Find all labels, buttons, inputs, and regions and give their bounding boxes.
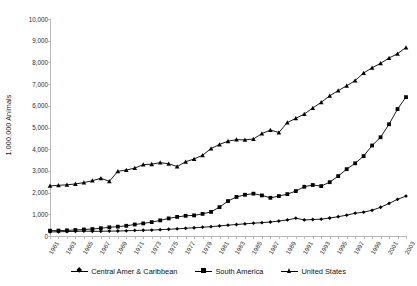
data-point-marker xyxy=(209,210,213,214)
legend-label: South America xyxy=(215,267,263,276)
data-point-marker xyxy=(404,45,409,49)
data-point-marker xyxy=(327,94,332,98)
data-point-marker xyxy=(260,194,264,198)
data-point-marker xyxy=(302,185,306,189)
data-point-marker xyxy=(336,88,341,92)
data-point-marker xyxy=(167,227,171,231)
data-point-marker xyxy=(116,229,120,233)
data-point-marker xyxy=(294,216,298,220)
data-point-marker xyxy=(387,202,391,206)
data-point-marker xyxy=(260,221,264,225)
data-point-marker xyxy=(379,205,383,209)
data-point-marker xyxy=(336,215,340,219)
data-point-marker xyxy=(370,144,374,148)
data-point-marker xyxy=(252,221,256,225)
data-point-marker xyxy=(133,229,137,233)
data-point-marker xyxy=(361,71,366,75)
data-point-marker xyxy=(141,222,145,226)
legend-label: United States xyxy=(301,267,345,276)
data-point-marker xyxy=(353,161,357,165)
data-point-marker xyxy=(336,174,340,178)
data-point-marker xyxy=(192,213,196,217)
data-point-marker xyxy=(396,107,400,111)
legend-triangle-marker-icon xyxy=(281,267,298,275)
data-point-marker xyxy=(235,195,239,199)
data-point-marker xyxy=(209,225,213,229)
legend-entry[interactable]: United States xyxy=(281,267,345,276)
legend-entry[interactable]: South America xyxy=(195,267,263,276)
data-point-marker xyxy=(379,135,383,139)
chart-legend: Central Amer & CaribbeanSouth AmericaUni… xyxy=(0,264,417,278)
data-point-marker xyxy=(167,217,171,221)
data-point-marker xyxy=(344,84,349,88)
data-point-marker xyxy=(353,211,357,215)
data-point-marker xyxy=(150,228,154,232)
data-point-marker xyxy=(387,56,392,60)
data-point-marker xyxy=(116,225,120,229)
data-point-marker xyxy=(362,154,366,158)
data-point-marker xyxy=(201,225,205,229)
data-point-marker xyxy=(396,197,400,201)
series-line xyxy=(50,97,406,231)
data-point-marker xyxy=(387,122,391,126)
data-point-marker xyxy=(345,213,349,217)
legend-entry[interactable]: Central Amer & Caribbean xyxy=(71,267,177,276)
data-point-marker xyxy=(328,216,332,220)
data-point-marker xyxy=(175,227,179,231)
data-point-marker xyxy=(310,106,315,110)
data-point-marker xyxy=(311,183,315,187)
data-point-marker xyxy=(65,228,69,232)
data-point-marker xyxy=(90,227,94,231)
data-point-marker xyxy=(175,215,179,219)
data-point-marker xyxy=(192,226,196,230)
data-point-marker xyxy=(277,194,281,198)
data-point-marker xyxy=(277,219,281,223)
data-point-marker xyxy=(48,229,52,233)
line-chart: 1,000,000 Animals 10,0009,0008,0007,0006… xyxy=(0,0,417,286)
data-point-marker xyxy=(184,226,188,230)
data-point-marker xyxy=(158,218,162,222)
data-point-marker xyxy=(294,116,299,120)
data-point-marker xyxy=(319,184,323,188)
data-point-marker xyxy=(158,228,162,232)
data-point-marker xyxy=(404,95,408,99)
data-point-marker xyxy=(201,212,205,216)
data-point-marker xyxy=(378,61,383,65)
data-point-marker xyxy=(268,220,272,224)
data-point-marker xyxy=(107,229,111,233)
data-point-marker xyxy=(268,196,272,200)
data-point-marker xyxy=(285,192,289,196)
data-point-marker xyxy=(226,223,230,227)
data-point-marker xyxy=(218,224,222,228)
data-point-marker xyxy=(99,176,104,180)
data-point-marker xyxy=(252,192,256,196)
data-point-marker xyxy=(192,157,197,161)
data-point-marker xyxy=(285,120,290,124)
data-point-marker xyxy=(150,220,154,224)
series-1 xyxy=(48,95,408,232)
series-2 xyxy=(48,45,409,188)
data-point-marker xyxy=(362,210,366,214)
data-point-marker xyxy=(226,199,230,203)
data-point-marker xyxy=(107,225,111,229)
data-point-marker xyxy=(141,228,145,232)
data-point-marker xyxy=(311,218,315,222)
data-point-marker xyxy=(218,205,222,209)
data-point-marker xyxy=(268,128,273,132)
data-point-marker xyxy=(345,167,349,171)
data-point-marker xyxy=(302,218,306,222)
data-point-marker xyxy=(285,218,289,222)
data-point-marker xyxy=(124,224,128,228)
data-point-marker xyxy=(124,229,128,233)
legend-square-marker-icon xyxy=(195,267,212,275)
data-point-marker xyxy=(243,222,247,226)
data-point-marker xyxy=(370,208,374,212)
data-point-marker xyxy=(133,223,137,227)
data-point-marker xyxy=(74,228,78,232)
legend-label: Central Amer & Caribbean xyxy=(91,267,177,276)
data-point-marker xyxy=(319,217,323,221)
data-point-marker xyxy=(184,214,188,218)
data-point-marker xyxy=(209,146,214,150)
data-point-marker xyxy=(82,228,86,232)
data-point-marker xyxy=(57,229,61,233)
